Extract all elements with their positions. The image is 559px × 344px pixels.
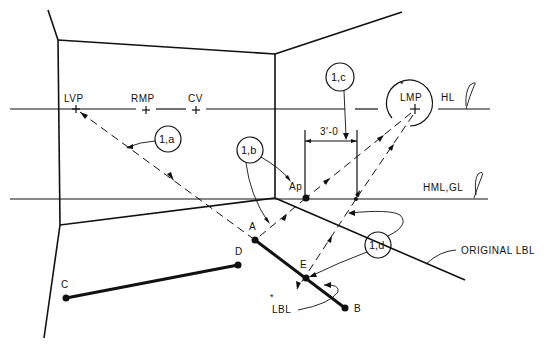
callout-1b: 1,b bbox=[237, 137, 291, 224]
line-cd bbox=[66, 265, 238, 298]
hl-leader bbox=[466, 83, 476, 109]
room-outline bbox=[44, 10, 402, 338]
lvp-label: LVP bbox=[64, 93, 84, 104]
callout-1a: 1,a bbox=[126, 126, 181, 152]
rmp-label: RMP bbox=[131, 93, 155, 104]
point-e bbox=[303, 275, 310, 282]
lbl-leader-arrow bbox=[324, 282, 331, 288]
e-label: E bbox=[300, 259, 307, 270]
callout-1d: 1,d bbox=[309, 210, 403, 277]
c-label: C bbox=[61, 279, 69, 290]
b-label: B bbox=[354, 303, 361, 314]
lmp-label: LMP bbox=[400, 92, 422, 103]
left-floor-edge bbox=[44, 225, 60, 338]
d-label: D bbox=[235, 246, 243, 257]
point-b bbox=[342, 305, 349, 312]
svg-text:1,d: 1,d bbox=[369, 239, 384, 251]
point-gl-intersect bbox=[354, 197, 358, 201]
hml-leader bbox=[474, 172, 483, 198]
lbl-label: LBL bbox=[272, 304, 291, 315]
perspective-diagram: LVP RMP CV LMP HL HML,GL * 3'-0 ORIGINAL… bbox=[0, 0, 559, 344]
left-wall-corner bbox=[58, 40, 60, 225]
point-c bbox=[63, 295, 70, 302]
point-ap bbox=[303, 195, 310, 202]
lvp-to-a-line bbox=[80, 112, 255, 240]
ap-to-a-line bbox=[255, 198, 306, 240]
back-floor-edge bbox=[60, 198, 275, 225]
svg-text:1,c: 1,c bbox=[331, 71, 346, 83]
rmp-marker bbox=[142, 106, 150, 114]
svg-text:1,b: 1,b bbox=[241, 144, 256, 156]
lmp-marker bbox=[410, 104, 420, 114]
point-a bbox=[252, 237, 259, 244]
a-label: A bbox=[249, 221, 256, 232]
hl-label: HL bbox=[441, 92, 455, 103]
dimension-label: 3'-0 bbox=[320, 126, 338, 137]
lmp-asterisk: * bbox=[400, 79, 404, 89]
original-lbl-label: ORIGINAL LBL bbox=[461, 245, 535, 256]
original-lbl-leader bbox=[426, 250, 456, 264]
left-ceiling-edge bbox=[48, 10, 58, 40]
svg-text:1,a: 1,a bbox=[159, 133, 175, 145]
point-d bbox=[235, 262, 242, 269]
lbl-asterisk: * bbox=[270, 292, 274, 302]
ap-label: Ap bbox=[289, 181, 302, 192]
back-ceiling-edge bbox=[58, 40, 275, 54]
cv-marker bbox=[192, 106, 200, 114]
line-ab bbox=[255, 240, 345, 308]
right-ceiling-edge bbox=[275, 12, 402, 54]
hml-gl-label: HML,GL bbox=[423, 182, 463, 193]
lvp-marker bbox=[72, 105, 80, 113]
lmp-circle-arc bbox=[386, 80, 432, 126]
lmp-to-gl-line bbox=[356, 115, 413, 199]
cv-label: CV bbox=[188, 93, 203, 104]
